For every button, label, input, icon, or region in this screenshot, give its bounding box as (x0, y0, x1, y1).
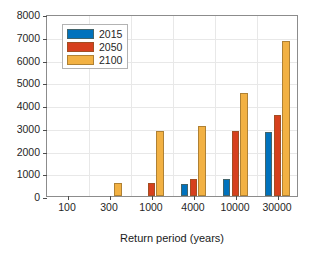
bar-2100-4000 (198, 126, 205, 196)
y-tick-label: 5000 (0, 78, 40, 88)
x-tick-mark (68, 196, 69, 200)
y-tick-mark (43, 84, 47, 85)
x-tick-label: 4000 (181, 201, 204, 213)
y-tick-mark (43, 107, 47, 108)
y-tick-mark (43, 62, 47, 63)
x-tick-mark (278, 196, 279, 200)
x-tick-label: 30000 (262, 201, 291, 213)
y-tick-mark (43, 39, 47, 40)
y-tick-label: 6000 (0, 56, 40, 66)
x-tick-label: 10000 (220, 201, 249, 213)
y-tick-mark (43, 198, 47, 199)
y-tick-label: 7000 (0, 33, 40, 43)
x-tick-mark (110, 196, 111, 200)
vertical-gridline (173, 16, 174, 196)
gridline (47, 84, 297, 85)
x-tick-mark (194, 196, 195, 200)
bar-2100-10000 (240, 93, 247, 197)
bar-2050-4000 (190, 179, 197, 196)
plot-area: 201520502100 (46, 15, 298, 197)
legend-item-2015[interactable]: 2015 (67, 28, 122, 39)
legend-swatch-icon (67, 55, 94, 65)
gridline (47, 130, 297, 131)
bar-2100-300 (114, 183, 121, 196)
legend-swatch-icon (67, 42, 94, 52)
x-tick-label: 1000 (139, 201, 162, 213)
y-tick-label: 2000 (0, 147, 40, 157)
legend-label: 2015 (99, 29, 122, 39)
bar-2100-30000 (282, 41, 289, 196)
vertical-gridline (215, 16, 216, 196)
bar-2050-30000 (274, 115, 281, 196)
gridline (47, 153, 297, 154)
y-tick-label: 0 (0, 192, 40, 202)
bar-2050-10000 (232, 131, 239, 196)
bar-2015-10000 (223, 179, 230, 196)
legend-swatch-icon (67, 29, 94, 39)
bar-2015-30000 (265, 132, 272, 196)
y-tick-mark (43, 16, 47, 17)
bar-2100-1000 (156, 131, 163, 196)
x-tick-label: 300 (100, 201, 118, 213)
x-axis-label: Return period (years) (46, 232, 298, 244)
vertical-gridline (257, 16, 258, 196)
legend-item-2050[interactable]: 2050 (67, 41, 122, 52)
bar-2015-4000 (181, 184, 188, 197)
gridline (47, 107, 297, 108)
y-tick-label: 4000 (0, 101, 40, 111)
vertical-gridline (131, 16, 132, 196)
legend-label: 2050 (99, 42, 122, 52)
x-tick-mark (236, 196, 237, 200)
bar-2050-1000 (148, 183, 155, 196)
y-tick-label: 1000 (0, 169, 40, 179)
y-tick-mark (43, 153, 47, 154)
chart-legend[interactable]: 201520502100 (62, 24, 128, 69)
y-tick-mark (43, 130, 47, 131)
x-tick-mark (152, 196, 153, 200)
chart-figure: Spill volume (m3) Return period (years) … (0, 0, 312, 258)
x-tick-label: 100 (58, 201, 76, 213)
gridline (47, 175, 297, 176)
y-tick-label: 3000 (0, 124, 40, 134)
legend-item-2100[interactable]: 2100 (67, 54, 122, 65)
y-tick-label: 8000 (0, 10, 40, 20)
legend-label: 2100 (99, 55, 122, 65)
y-tick-mark (43, 175, 47, 176)
